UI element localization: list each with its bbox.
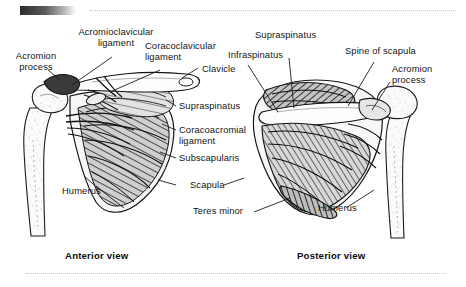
anterior-panel-art bbox=[24, 72, 200, 236]
label-coracoclavicular-ligament: Coracoclavicular ligament bbox=[145, 40, 235, 62]
label-scapula: Scapula bbox=[190, 179, 225, 190]
caption-posterior-view: Posterior view bbox=[297, 250, 365, 261]
label-acromion-process-posterior: Acromion process bbox=[392, 63, 454, 85]
leader-scapula-anterior-right bbox=[224, 178, 244, 185]
label-subscapularis: Subscapularis bbox=[179, 152, 239, 163]
anterior-clavicle bbox=[74, 72, 200, 92]
leader-scapula-anterior-left bbox=[158, 180, 176, 185]
figure-page: Acromion process Acromioclavicular ligam… bbox=[0, 0, 466, 287]
label-clavicle: Clavicle bbox=[202, 63, 236, 74]
label-supraspinatus-anterior: Supraspinatus bbox=[179, 100, 240, 111]
label-spine-of-scapula: Spine of scapula bbox=[345, 45, 416, 56]
label-teres-minor: Teres minor bbox=[193, 205, 243, 216]
posterior-panel-art bbox=[253, 80, 417, 238]
label-supraspinatus-posterior: Supraspinatus bbox=[255, 29, 316, 40]
anterior-humerus bbox=[24, 84, 68, 236]
caption-anterior-view: Anterior view bbox=[65, 250, 128, 261]
label-infraspinatus: Infraspinatus bbox=[228, 49, 283, 60]
label-humerus-posterior: Humerus bbox=[318, 202, 357, 213]
leader-teres-minor bbox=[254, 198, 290, 212]
label-coracoacromial-ligament: Coracoacromial ligament bbox=[179, 124, 269, 146]
label-humerus-anterior: Humerus bbox=[62, 185, 101, 196]
label-acromion-process-anterior: Acromion process bbox=[4, 50, 68, 72]
